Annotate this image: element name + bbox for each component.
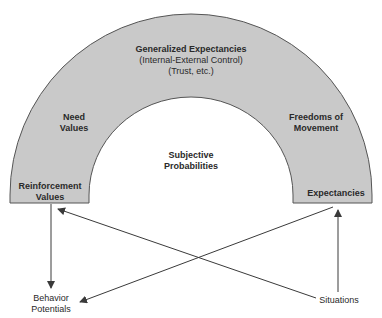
arch-shape	[10, 14, 372, 203]
label-freedoms-of: Freedoms of	[289, 112, 343, 123]
diagram-canvas: Generalized Expectancies (Internal-Exter…	[0, 0, 382, 318]
label-behavior: Behavior	[33, 293, 69, 304]
label-expectancies: Expectancies	[307, 188, 365, 199]
label-internal-external-control: (Internal-External Control)	[139, 55, 243, 66]
label-reinforcement: Reinforcement	[18, 181, 81, 192]
label-trust: (Trust, etc.)	[168, 66, 214, 77]
arrow-expectancies-to-behavior	[80, 207, 333, 302]
label-reinforcement-values: Values	[36, 192, 65, 203]
label-need-values: Values	[60, 123, 89, 134]
arrow-situations-to-reinforcement	[58, 209, 316, 298]
label-movement: Movement	[294, 123, 339, 134]
label-need: Need	[63, 112, 85, 123]
label-potentials: Potentials	[31, 304, 71, 315]
label-probabilities: Probabilities	[164, 161, 218, 172]
label-generalized-expectancies: Generalized Expectancies	[135, 44, 246, 55]
label-subjective: Subjective	[168, 150, 213, 161]
label-situations: Situations	[319, 295, 359, 306]
